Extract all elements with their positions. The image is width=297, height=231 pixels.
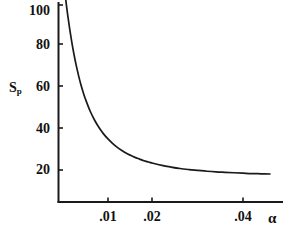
x-tick-label-04: .04 xyxy=(223,210,263,224)
y-tick-label-100: 100 xyxy=(4,4,50,18)
y-tick-label-80: 80 xyxy=(4,38,50,52)
x-tick-label-02: .02 xyxy=(132,210,172,224)
y-tick-label-20: 20 xyxy=(4,163,50,177)
x-axis-title: α xyxy=(268,211,276,226)
chart-plot-area xyxy=(0,0,297,231)
y-axis-title-base: S xyxy=(9,80,17,95)
y-axis-title-subscript: p xyxy=(17,86,22,96)
chart-figure: 100 80 60 40 20 .01 .02 .04 Sp α xyxy=(0,0,297,231)
y-axis-title: Sp xyxy=(9,81,22,95)
y-tick-label-40: 40 xyxy=(4,122,50,136)
x-tick-label-01: .01 xyxy=(88,210,128,224)
data-series-curve xyxy=(65,0,270,174)
